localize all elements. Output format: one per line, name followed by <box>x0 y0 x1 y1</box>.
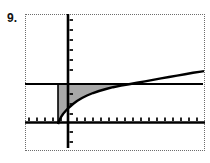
problem-figure-page: 9. <box>0 0 210 163</box>
problem-number-label: 9. <box>7 12 17 25</box>
x-axis-ticks <box>29 118 197 122</box>
graph-plot <box>25 14 205 151</box>
x-axis <box>25 118 205 123</box>
y-axis <box>68 14 73 148</box>
